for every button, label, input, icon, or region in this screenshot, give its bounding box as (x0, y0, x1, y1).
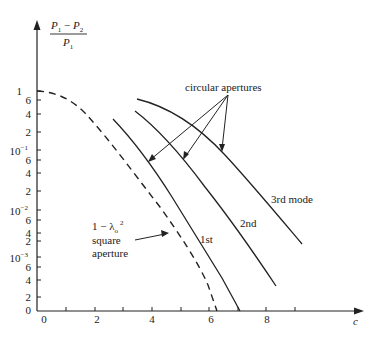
svg-text:P1 − P2: P1 − P2 (50, 19, 84, 34)
y-axis-label: P1 − P2 P1 (50, 19, 87, 51)
arrowhead-icon (148, 154, 156, 162)
chart: 1 6 4 2 10−1 6 4 2 10−2 6 4 2 10−3 6 4 2… (0, 0, 376, 338)
x-tick-labels: 0 2 4 6 8 (41, 313, 270, 325)
label-2nd: 2nd (240, 217, 257, 229)
svg-text:aperture: aperture (92, 247, 128, 259)
y-tick-label: 2 (26, 126, 32, 138)
y-tick-label: 0 (26, 304, 32, 316)
annotation-circular-apertures: circular apertures (185, 81, 262, 93)
svg-text:1 − λo2: 1 − λo2 (92, 219, 124, 235)
x-tick-label: 4 (149, 313, 155, 325)
x-tick-label: 8 (264, 313, 270, 325)
y-axis-arrow-icon (34, 20, 41, 30)
y-tick-label: 2 (26, 291, 32, 303)
y-tick-label: 4 (26, 167, 32, 179)
label-3rd-mode: 3rd mode (271, 193, 313, 205)
y-tick-labels: 1 6 4 2 10−1 6 4 2 10−2 6 4 2 10−3 6 4 2… (10, 85, 32, 316)
series-3rd-mode (137, 99, 302, 244)
series-2nd (135, 111, 276, 286)
label-1st: 1st (200, 233, 213, 245)
y-tick-label: 2 (26, 235, 32, 247)
svg-text:P1: P1 (62, 36, 74, 51)
y-tick-label: 6 (26, 94, 32, 106)
y-tick-label: 4 (26, 274, 32, 286)
y-tick-label: 6 (26, 261, 32, 273)
x-axis-label: c (353, 315, 358, 327)
y-tick-label: 6 (26, 214, 32, 226)
square-aperture-arrow (135, 234, 165, 240)
x-tick-label: 0 (41, 313, 47, 325)
x-tick-label: 2 (94, 313, 100, 325)
y-tick-label: 4 (26, 108, 32, 120)
arrowhead-icon (161, 230, 169, 237)
svg-text:square: square (92, 234, 121, 246)
x-tick-label: 6 (208, 313, 214, 325)
y-tick-label: 2 (26, 185, 32, 197)
arrowhead-icon (219, 144, 225, 152)
y-tick-label: 1 (17, 85, 23, 97)
x-axis-arrow-icon (354, 308, 364, 315)
circular-apertures-arrows (150, 95, 228, 160)
annotation-square-aperture: 1 − λo2 square aperture (92, 219, 128, 259)
y-tick-label: 6 (26, 154, 32, 166)
